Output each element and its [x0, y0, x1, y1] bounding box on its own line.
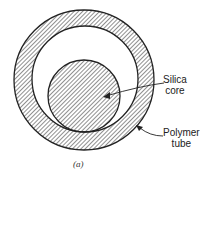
silica-core-label-line2: core [163, 85, 187, 96]
figure-caption: (a) [73, 159, 84, 169]
silica-core-label: Silica core [163, 74, 187, 96]
polymer-tube-label: Polymer tube [163, 127, 200, 149]
polymer-tube-label-line2: tube [163, 138, 200, 149]
polymer-tube-label-line1: Polymer [163, 127, 200, 138]
silica-core-label-line1: Silica [163, 74, 187, 85]
